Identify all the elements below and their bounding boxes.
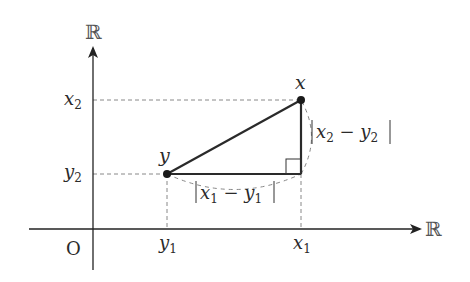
origin-label: O [66,238,81,259]
horizontal-axis-label: ℝ [425,217,442,241]
right-angle-marker [286,159,301,174]
point-x [297,96,305,104]
vertical-leg-length-label: x2 − y2 [312,120,390,145]
point-y [163,170,171,178]
guide-lines [93,100,301,229]
svg-text:x1 − y1: x1 − y1 [200,182,262,206]
tick-y1-label: y1 [158,232,177,256]
horizontal-leg-length-label: x1 − y1 [196,181,274,206]
right-triangle [167,100,301,174]
svg-text:x2 − y2: x2 − y2 [316,121,378,145]
diagram-canvas: ℝ ℝ O x y x2 y2 y1 x1 x1 − y1 x2 − y2 [0,0,470,282]
tick-y2-label: y2 [63,161,82,185]
point-x-label: x [295,71,306,93]
dashed-arc [167,100,312,190]
hypotenuse [167,100,301,174]
vertical-axis-label: ℝ [85,20,102,44]
tick-x1-label: x1 [293,232,311,256]
tick-x2-label: x2 [64,88,82,112]
point-y-label: y [158,144,170,166]
